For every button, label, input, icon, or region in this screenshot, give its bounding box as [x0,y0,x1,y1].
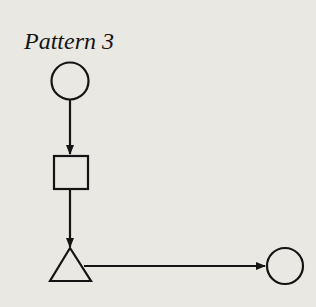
start-circle [52,63,89,100]
end-circle [267,248,303,284]
decision-triangle [50,248,91,281]
process-square [54,156,88,189]
flow-diagram [0,0,316,307]
